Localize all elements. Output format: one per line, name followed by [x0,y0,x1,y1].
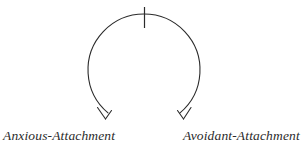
continuum-arc-path [88,14,200,113]
anxious-attachment-label: Anxious-Attachment [3,129,115,143]
avoidant-attachment-label: Avoidant-Attachment [183,129,300,143]
attachment-continuum-figure: Anxious-Attachment Avoidant-Attachment [0,0,307,153]
